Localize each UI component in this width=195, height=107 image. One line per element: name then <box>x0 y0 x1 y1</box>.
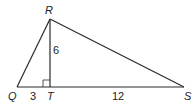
segment-qr <box>17 19 50 87</box>
measure-rt: 6 <box>53 44 59 56</box>
right-angle-marker <box>43 80 50 87</box>
vertex-label-r: R <box>45 4 53 16</box>
vertex-label-s: S <box>184 90 192 102</box>
vertex-label-q: Q <box>8 90 17 102</box>
measure-ts: 12 <box>112 90 124 102</box>
vertex-label-t: T <box>47 90 55 102</box>
measure-qt: 3 <box>30 90 36 102</box>
triangle-diagram: R Q T S 6 3 12 <box>0 0 195 107</box>
segment-rs <box>50 19 184 87</box>
